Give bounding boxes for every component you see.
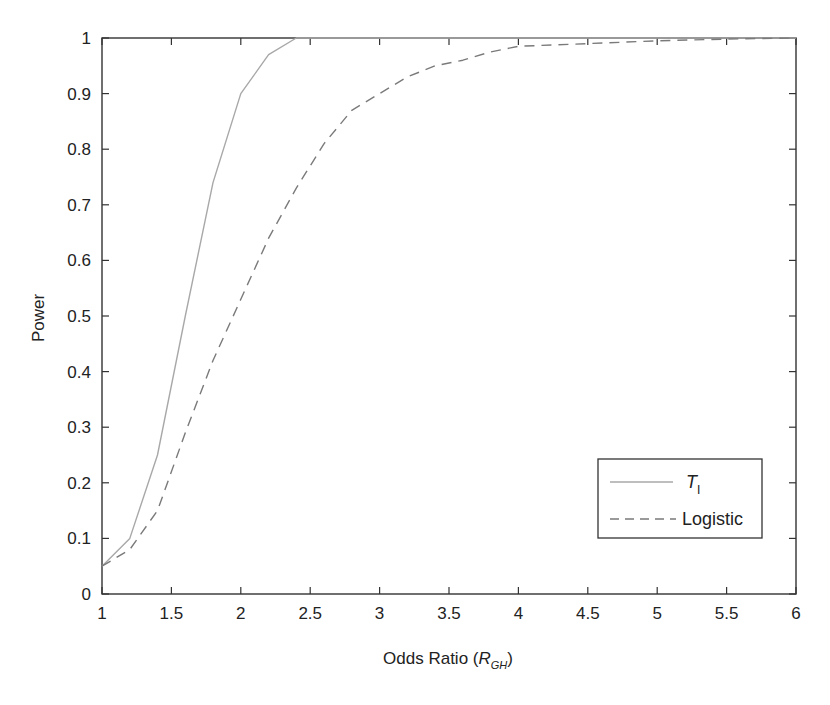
x-tick-label: 4 bbox=[514, 604, 523, 623]
x-tick-label: 3 bbox=[375, 604, 384, 623]
x-tick-label: 2 bbox=[236, 604, 245, 623]
y-tick-label: 0.4 bbox=[67, 363, 91, 382]
x-tick-label: 6 bbox=[791, 604, 800, 623]
x-tick-label: 1.5 bbox=[160, 604, 184, 623]
y-tick-label: 1 bbox=[82, 29, 91, 48]
y-tick-label: 0.5 bbox=[67, 307, 91, 326]
y-tick-label: 0.2 bbox=[67, 474, 91, 493]
power-chart: 11.522.533.544.555.56 00.10.20.30.40.50.… bbox=[0, 0, 830, 705]
legend: TI Logistic bbox=[598, 459, 762, 538]
y-axis-label: Power bbox=[29, 294, 48, 343]
legend-logistic-label: Logistic bbox=[682, 509, 743, 529]
y-tick-label: 0.1 bbox=[67, 529, 91, 548]
y-tick-label: 0.9 bbox=[67, 85, 91, 104]
y-tick-label: 0.8 bbox=[67, 140, 91, 159]
y-tick-label: 0 bbox=[82, 585, 91, 604]
y-tick-label: 0.6 bbox=[67, 251, 91, 270]
y-tick-label: 0.7 bbox=[67, 196, 91, 215]
x-axis-label: Odds Ratio (RGH) bbox=[383, 649, 513, 671]
x-tick-label: 3.5 bbox=[437, 604, 461, 623]
x-tick-label: 2.5 bbox=[298, 604, 322, 623]
x-tick-label: 5 bbox=[652, 604, 661, 623]
y-tick-label: 0.3 bbox=[67, 418, 91, 437]
x-tick-label: 5.5 bbox=[715, 604, 739, 623]
x-tick-label: 1 bbox=[97, 604, 106, 623]
x-tick-label: 4.5 bbox=[576, 604, 600, 623]
